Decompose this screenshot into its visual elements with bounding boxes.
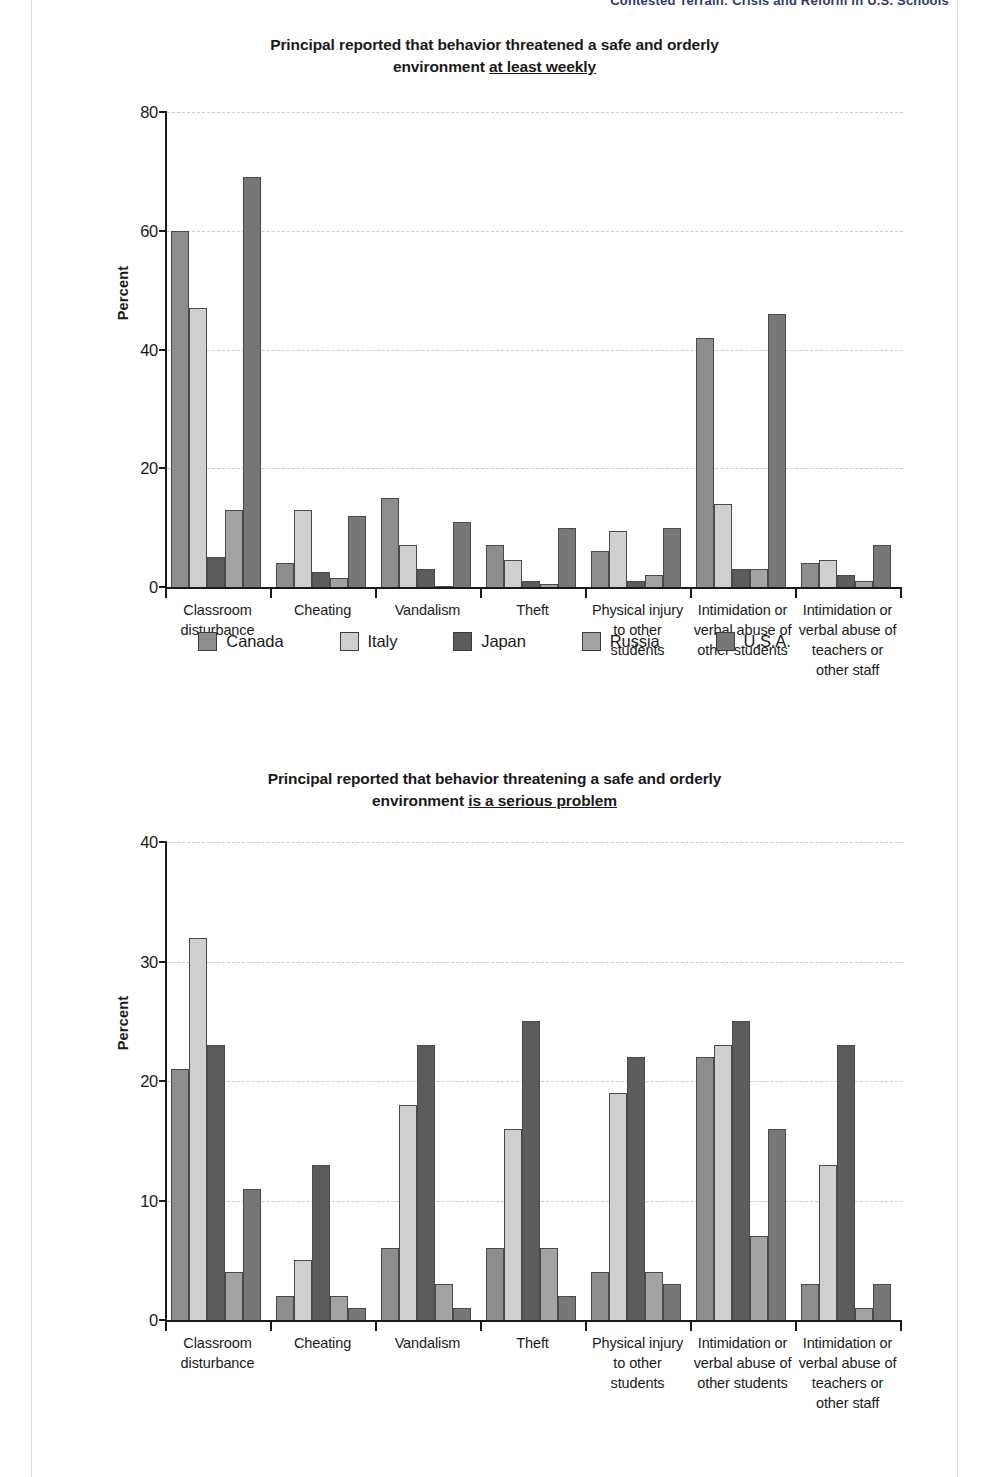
chart-title-1-line2-prefix: environment [393,58,489,75]
bar-canada-2 [381,1248,399,1320]
x-tick-mark [375,1322,377,1331]
bar-italy-4 [609,531,627,587]
bar-canada-0 [171,231,189,587]
bar-japan-2 [417,1045,435,1320]
legend-item-russia[interactable]: Russia [582,632,660,651]
x-axis-label: Intimidation or verbal abuse of teachers… [795,1333,900,1413]
bar-groups-2 [167,842,902,1320]
chart-title-2-line2-underlined: is a serious problem [468,792,617,809]
bar-russia-4 [645,1272,663,1320]
y-tick-label: 20 [140,1072,167,1091]
chart-title-2-line1: Principal reported that behavior threate… [268,770,722,787]
bar-group [587,112,692,587]
bar-russia-4 [645,575,663,587]
bar-italy-4 [609,1093,627,1320]
bar-japan-5 [732,1021,750,1320]
x-tick-mark [690,1322,692,1331]
bar-canada-4 [591,1272,609,1320]
bar-canada-2 [381,498,399,587]
bar-canada-0 [171,1069,189,1320]
x-tick-mark [480,589,482,598]
y-axis-title-2: Percent [115,996,131,1051]
x-tick-mark [480,1322,482,1331]
x-tick-mark [900,1322,902,1331]
bar-japan-5 [732,569,750,587]
legend-label: Russia [610,632,660,651]
bar-russia-2 [435,586,453,587]
y-tick-label: 40 [140,833,167,852]
bar-russia-3 [540,1248,558,1320]
bar-russia-1 [330,1296,348,1320]
bar-italy-0 [189,308,207,587]
x-tick-mark [375,589,377,598]
legend-swatch-icon [198,632,217,651]
bar-usa-0 [243,1189,261,1320]
x-axis-ticks-1 [165,589,900,599]
bar-canada-1 [276,1296,294,1320]
x-tick-mark [165,1322,167,1331]
bar-usa-2 [453,1308,471,1320]
x-tick-mark [270,589,272,598]
bar-usa-3 [558,528,576,587]
bar-italy-1 [294,510,312,587]
chart-title-1-line2-underlined: at least weekly [489,58,596,75]
x-tick-mark [795,589,797,598]
y-tick-label: 20 [140,459,167,478]
x-axis-labels-2: Classroom disturbanceCheatingVandalismTh… [165,1333,900,1413]
bar-usa-1 [348,1308,366,1320]
bar-canada-5 [696,1057,714,1320]
bar-group [167,112,272,587]
chart-title-2: Principal reported that behavior threate… [165,768,825,812]
bar-usa-2 [453,522,471,587]
bar-italy-6 [819,560,837,587]
bar-group [587,842,692,1320]
bar-groups-1 [167,112,902,587]
legend-swatch-icon [582,632,601,651]
bar-group [482,112,587,587]
x-axis-label: Cheating [270,1333,375,1413]
x-axis-label: Vandalism [375,1333,480,1413]
bar-japan-1 [312,572,330,587]
bar-usa-5 [768,314,786,587]
y-tick-label: 60 [140,221,167,240]
bar-japan-4 [627,1057,645,1320]
y-tick-label: 10 [140,1191,167,1210]
legend-item-usa[interactable]: U.S.A. [716,632,791,651]
legend-swatch-icon [453,632,472,651]
bar-italy-3 [504,1129,522,1320]
bar-japan-0 [207,1045,225,1320]
bar-japan-4 [627,581,645,587]
legend-label: Canada [226,632,283,651]
bar-russia-0 [225,510,243,587]
running-head: Contested Terrain: Crisis and Reform in … [610,0,949,6]
bar-italy-5 [714,1045,732,1320]
legend: CanadaItalyJapanRussiaU.S.A. [0,632,989,651]
bar-canada-3 [486,1248,504,1320]
bar-italy-0 [189,938,207,1320]
bar-japan-1 [312,1165,330,1320]
bar-group [692,112,797,587]
legend-swatch-icon [716,632,735,651]
bar-italy-6 [819,1165,837,1320]
bar-italy-2 [399,545,417,587]
figure-serious-problem: Principal reported that behavior threate… [0,768,989,1468]
bar-italy-2 [399,1105,417,1320]
x-axis-label: Intimidation or verbal abuse of other st… [690,1333,795,1413]
x-axis-ticks-2 [165,1322,900,1332]
legend-item-japan[interactable]: Japan [453,632,525,651]
bar-russia-3 [540,584,558,587]
bar-japan-0 [207,557,225,587]
x-axis-label: Physical injury to other students [585,1333,690,1413]
bar-japan-6 [837,575,855,587]
bar-canada-6 [801,1284,819,1320]
legend-item-italy[interactable]: Italy [340,632,398,651]
x-axis-label: Classroom disturbance [165,1333,270,1413]
y-tick-label: 80 [140,103,167,122]
x-tick-mark [900,589,902,598]
x-tick-mark [585,1322,587,1331]
legend-item-canada[interactable]: Canada [198,632,283,651]
x-axis-label: Theft [480,1333,585,1413]
bar-usa-6 [873,1284,891,1320]
legend-label: U.S.A. [744,632,791,651]
bar-russia-1 [330,578,348,587]
